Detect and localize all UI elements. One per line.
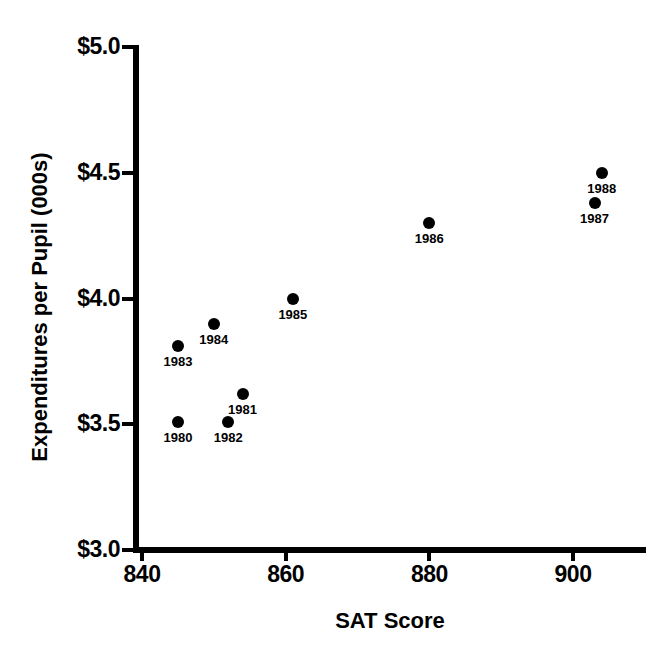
y-axis-tick-label: $5.0 <box>40 35 120 58</box>
data-point <box>222 416 234 428</box>
x-axis-tick-label: 900 <box>533 563 613 586</box>
data-point-label: 1987 <box>550 212 640 225</box>
y-axis-tick-label: $3.0 <box>40 538 120 561</box>
data-point <box>172 416 184 428</box>
x-axis-tick-label: 860 <box>246 563 326 586</box>
x-axis-tick <box>427 551 431 561</box>
data-point <box>237 388 249 400</box>
data-point-label: 1983 <box>133 355 223 368</box>
data-point-label: 1986 <box>384 232 474 245</box>
data-point <box>596 167 608 179</box>
x-axis-tick-label: 880 <box>389 563 469 586</box>
y-axis-tick <box>122 45 134 49</box>
data-point <box>423 217 435 229</box>
y-axis-tick <box>122 548 134 552</box>
x-axis-tick-label: 840 <box>102 563 182 586</box>
x-axis-title: SAT Score <box>0 608 670 634</box>
y-axis-tick <box>122 171 134 175</box>
data-point-label: 1981 <box>198 403 288 416</box>
data-point <box>208 318 220 330</box>
data-point-label: 1988 <box>557 182 647 195</box>
y-axis-tick <box>122 297 134 301</box>
x-axis-tick <box>571 551 575 561</box>
y-axis-tick-label-wrap: $5.0 <box>38 35 120 59</box>
data-point <box>589 197 601 209</box>
y-axis-tick <box>122 422 134 426</box>
x-axis-line <box>133 547 646 553</box>
data-point-label: 1984 <box>169 333 259 346</box>
x-axis-tick <box>140 551 144 561</box>
data-point-label: 1985 <box>248 308 338 321</box>
y-axis-tick-label-wrap: $3.0 <box>38 538 120 562</box>
scatter-chart: $5.0$4.5$4.0$3.5$3.0 840860880900 198019… <box>0 0 670 654</box>
y-axis-title: Expenditures per Pupil (000s) <box>27 127 53 487</box>
x-axis-tick <box>284 551 288 561</box>
data-point-label: 1982 <box>183 431 273 444</box>
data-point <box>287 293 299 305</box>
